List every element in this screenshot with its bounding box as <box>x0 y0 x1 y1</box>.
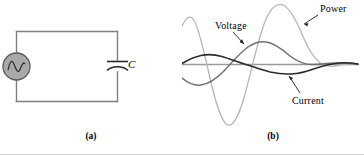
capacitor-plate-curved <box>107 67 128 71</box>
panel-b-waveforms: Voltage Power Current (b) <box>182 0 364 155</box>
panel-a-caption: (a) <box>0 131 182 141</box>
voltage-leader <box>233 32 244 44</box>
voltage-label: Voltage <box>215 20 247 31</box>
capacitor-label: C <box>128 58 135 70</box>
circuit-wires <box>17 32 118 102</box>
power-leader <box>304 15 318 27</box>
figure-container: C (a) <box>0 0 364 155</box>
current-label: Current <box>292 95 324 106</box>
power-label: Power <box>320 3 347 14</box>
current-leader <box>289 76 300 93</box>
capacitor-icon <box>107 62 128 71</box>
figure-bottom-rule <box>0 154 364 155</box>
panel-b-caption: (b) <box>182 131 364 141</box>
panel-a-circuit: C (a) <box>0 0 182 155</box>
ac-source-icon <box>3 53 30 80</box>
